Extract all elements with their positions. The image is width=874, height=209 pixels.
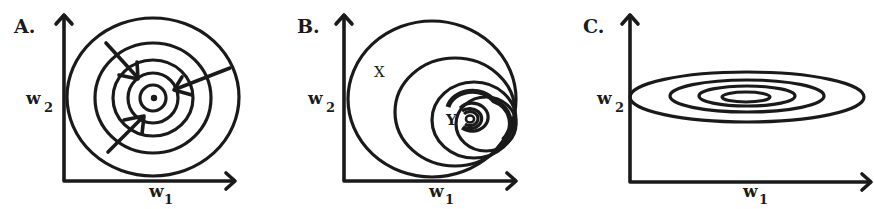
point-y-label: Y: [445, 111, 457, 129]
panel-a-contours: [67, 18, 239, 176]
panel-c: C. w 2 w 1: [583, 15, 871, 207]
svg-text:w: w: [428, 181, 444, 201]
panel-b-contours: [348, 21, 516, 177]
svg-text:2: 2: [615, 100, 624, 115]
panel-b-letter: B.: [297, 15, 320, 37]
panel-a-letter: A.: [13, 15, 35, 37]
svg-text:1: 1: [164, 192, 173, 207]
panel-a-x-label: w 1: [148, 181, 173, 207]
error-surface-figure: A. w 2 w 1: [0, 0, 874, 209]
panel-a: A. w 2 w 1: [13, 15, 239, 207]
panel-a-y-label: w 2: [25, 88, 53, 115]
panel-b-y-label: w 2: [307, 88, 335, 115]
svg-text:2: 2: [326, 100, 335, 115]
svg-text:w: w: [25, 88, 41, 108]
panel-b-x-label: w 1: [428, 181, 454, 207]
svg-text:2: 2: [44, 100, 53, 115]
panel-c-letter: C.: [583, 15, 604, 37]
svg-text:w: w: [596, 88, 612, 108]
svg-text:1: 1: [759, 192, 768, 207]
svg-text:w: w: [742, 181, 758, 201]
panel-c-x-label: w 1: [742, 181, 768, 207]
panel-c-y-label: w 2: [596, 88, 624, 115]
svg-text:1: 1: [445, 192, 454, 207]
panel-a-axes: [56, 15, 235, 189]
panel-c-contours: [630, 72, 864, 122]
svg-text:w: w: [148, 181, 164, 201]
svg-text:w: w: [307, 88, 323, 108]
point-x-label: X: [374, 63, 385, 81]
panel-b: B. X Y w 2 w 1: [297, 15, 516, 207]
